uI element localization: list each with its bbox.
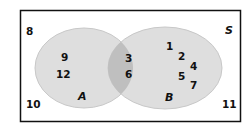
a-only-element-9: 9 [61,51,68,63]
outside-element-10: 10 [26,98,41,110]
outside-element-11: 11 [222,98,237,110]
set-b-label: B [165,91,173,104]
b-only-element-1: 1 [166,40,173,52]
b-only-element-4: 4 [190,60,197,72]
outside-element-8: 8 [26,25,33,37]
set-a-label: A [77,90,87,103]
venn-diagram: S A B 8 10 11 9 12 3 6 1 2 4 5 7 [0,0,251,125]
b-only-element-7: 7 [190,79,197,91]
a-only-element-12: 12 [56,68,71,80]
universal-set-label: S [225,24,233,37]
b-only-element-2: 2 [178,50,185,62]
intersection-element-6: 6 [125,68,132,80]
b-only-element-5: 5 [178,70,185,82]
intersection-element-3: 3 [125,52,132,64]
